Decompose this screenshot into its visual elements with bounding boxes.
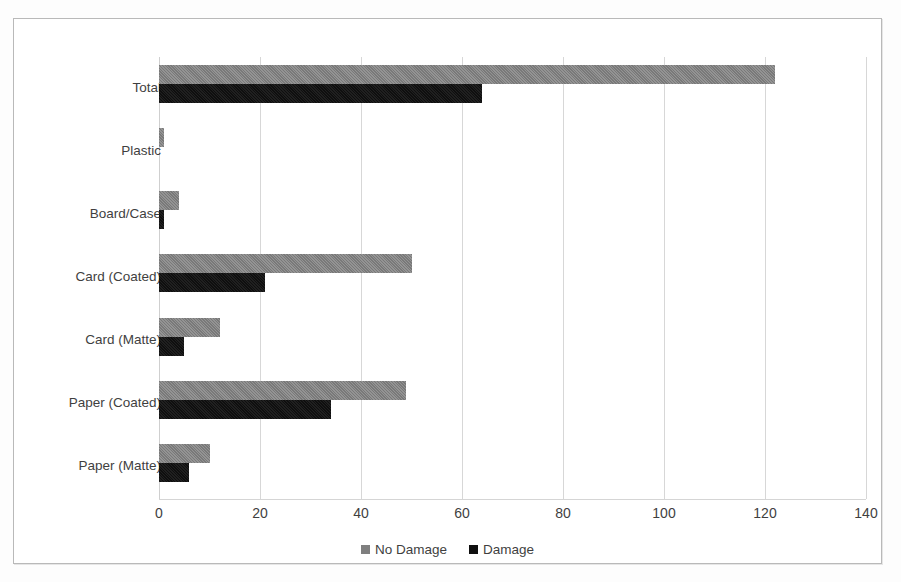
category-label-board-case: Board/Case	[0, 206, 161, 221]
x-tick-label-40: 40	[353, 505, 369, 521]
x-axis-baseline	[159, 499, 866, 500]
legend-item-nodamage[interactable]: No Damage	[361, 542, 447, 557]
category-row: Plastic	[159, 120, 866, 183]
category-label-paper-matte: Paper (Matte)	[0, 458, 161, 473]
bar-damage-paper-coated	[159, 400, 331, 419]
bar-nodamage-paper-coated	[159, 381, 406, 400]
bar-nodamage-card-coated	[159, 254, 412, 273]
chart-legend: No DamageDamage	[14, 542, 881, 557]
category-label-card-matte: Card (Matte)	[0, 332, 161, 347]
legend-label: Damage	[483, 542, 534, 557]
category-label-total: Total	[0, 80, 161, 95]
legend-swatch-nodamage-icon	[361, 545, 370, 554]
category-label-plastic: Plastic	[0, 143, 161, 158]
chart-frame: TotalPlasticBoard/CaseCard (Coated)Card …	[13, 18, 882, 564]
category-label-paper-coated: Paper (Coated)	[0, 395, 161, 410]
bar-nodamage-paper-matte	[159, 444, 210, 463]
x-tick-label-0: 0	[155, 505, 163, 521]
legend-item-damage[interactable]: Damage	[469, 542, 534, 557]
gridline-140	[866, 57, 867, 499]
category-row: Card (Coated)	[159, 246, 866, 309]
x-axis-tick-labels: 020406080100120140	[159, 505, 866, 529]
category-row: Paper (Matte)	[159, 436, 866, 499]
x-tick-label-80: 80	[555, 505, 571, 521]
bar-damage-card-coated	[159, 273, 265, 292]
category-row: Board/Case	[159, 183, 866, 246]
category-row: Paper (Coated)	[159, 373, 866, 436]
bar-damage-total	[159, 84, 482, 103]
bar-nodamage-card-matte	[159, 318, 220, 337]
plot-area: TotalPlasticBoard/CaseCard (Coated)Card …	[159, 57, 866, 499]
x-tick-label-20: 20	[252, 505, 268, 521]
legend-label: No Damage	[375, 542, 447, 557]
bar-damage-card-matte	[159, 337, 184, 356]
chart-page: TotalPlasticBoard/CaseCard (Coated)Card …	[0, 0, 901, 582]
category-row: Total	[159, 57, 866, 120]
category-row: Card (Matte)	[159, 310, 866, 373]
bar-damage-paper-matte	[159, 463, 189, 482]
x-tick-label-100: 100	[652, 505, 675, 521]
bar-damage-board-case	[159, 210, 164, 229]
legend-swatch-damage-icon	[469, 545, 478, 554]
x-tick-label-120: 120	[753, 505, 776, 521]
bar-nodamage-board-case	[159, 191, 179, 210]
bar-nodamage-plastic	[159, 128, 164, 147]
category-label-card-coated: Card (Coated)	[0, 269, 161, 284]
x-tick-label-60: 60	[454, 505, 470, 521]
x-tick-label-140: 140	[854, 505, 877, 521]
bar-nodamage-total	[159, 65, 775, 84]
